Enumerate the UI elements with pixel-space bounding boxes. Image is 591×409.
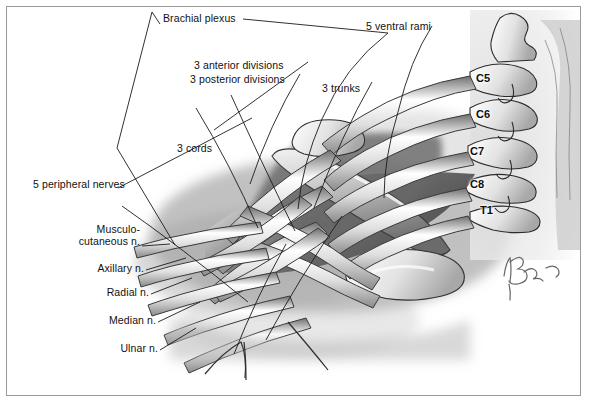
label-vertebra-c7: C7 <box>470 145 484 157</box>
cervical-spine <box>466 10 586 260</box>
artist-signature <box>504 257 559 300</box>
label-vertebra-c5: C5 <box>476 72 490 84</box>
label-axillary-nerve: Axillary n. <box>0 263 144 275</box>
label-musculocutaneous-nerve: Musculo-cutaneous n. <box>0 224 140 247</box>
label-ventral-rami: 5 ventral rami <box>366 21 431 33</box>
label-cords: 3 cords <box>177 143 212 155</box>
label-vertebra-c8: C8 <box>470 178 484 190</box>
label-vertebra-c6: C6 <box>476 108 490 120</box>
label-radial-nerve: Radial n. <box>0 287 149 299</box>
label-vertebra-t1: T1 <box>480 204 493 216</box>
label-median-nerve: Median n. <box>0 315 156 327</box>
label-brachial-plexus: Brachial plexus <box>163 13 236 25</box>
label-musculocutaneous-line1: Musculo- <box>97 223 140 235</box>
label-musculocutaneous-line2: cutaneous n. <box>79 235 140 247</box>
label-trunks: 3 trunks <box>322 83 360 95</box>
label-ulnar-nerve: Ulnar n. <box>0 343 158 355</box>
brachial-plexus-figure: Brachial plexus 5 ventral rami 3 anterio… <box>0 0 591 409</box>
label-posterior-divisions: 3 posterior divisions <box>190 74 285 86</box>
label-anterior-divisions: 3 anterior divisions <box>194 60 284 72</box>
label-peripheral-nerves: 5 peripheral nerves <box>33 179 125 191</box>
